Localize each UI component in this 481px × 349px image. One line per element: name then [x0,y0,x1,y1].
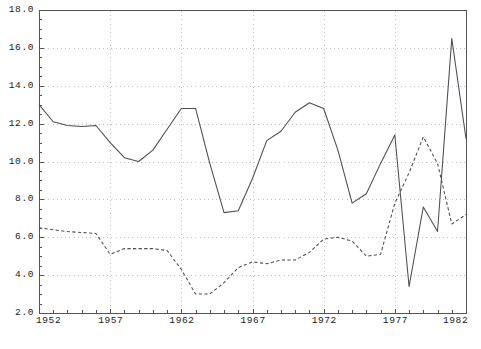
x-axis-tick-label: 1967 [241,315,266,326]
y-axis-tick-label: 8.0 [2,193,34,204]
line-chart: 18.016.014.012.010.08.06.04.02.0 1952195… [0,0,481,349]
y-axis-tick-label: 4.0 [2,269,34,280]
chart-plot-area [0,0,481,349]
y-axis-tick-label: 2.0 [2,307,34,318]
x-axis-tick-label: 1962 [169,315,194,326]
y-axis-tick-label: 12.0 [2,118,34,129]
y-axis-tick-label: 10.0 [2,156,34,167]
y-axis-tick-label: 18.0 [2,4,34,15]
axis-ticks [40,11,467,314]
x-axis-tick-label: 1972 [312,315,337,326]
plot-frame [39,10,466,313]
x-axis-tick-label: 1977 [383,315,408,326]
y-axis-tick-label: 14.0 [2,80,34,91]
gridlines [40,11,465,312]
x-axis-tick-label: 1952 [36,315,61,326]
y-axis-tick-label: 16.0 [2,42,34,53]
x-axis-tick-label: 1982 [443,315,468,326]
x-axis-tick-label: 1957 [98,315,123,326]
y-axis-tick-label: 6.0 [2,231,34,242]
